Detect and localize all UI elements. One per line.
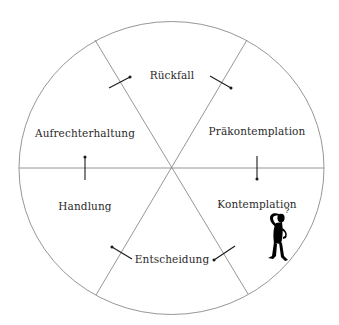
stage-label-entscheidung: Entscheidung xyxy=(135,253,209,265)
stage-label-kontemplation: Kontemplation xyxy=(217,198,296,210)
arrow-rueckfall-to-praekontemplation xyxy=(210,76,231,88)
arrow-kontemplation-to-entscheidung xyxy=(214,246,235,260)
arrow-entscheidung-to-handlung xyxy=(112,247,132,259)
stages-of-change-diagram: ? xyxy=(0,0,339,325)
stage-label-aufrechterhaltung: Aufrechterhaltung xyxy=(35,127,135,139)
stage-label-handlung: Handlung xyxy=(58,200,111,212)
stage-label-praekontemplation: Präkontemplation xyxy=(209,125,306,137)
arrow-aufrechterhaltung-to-rueckfall xyxy=(109,77,130,88)
stage-label-rueckfall: Rückfall xyxy=(150,69,195,81)
thinking-person-icon: ? xyxy=(268,206,289,261)
